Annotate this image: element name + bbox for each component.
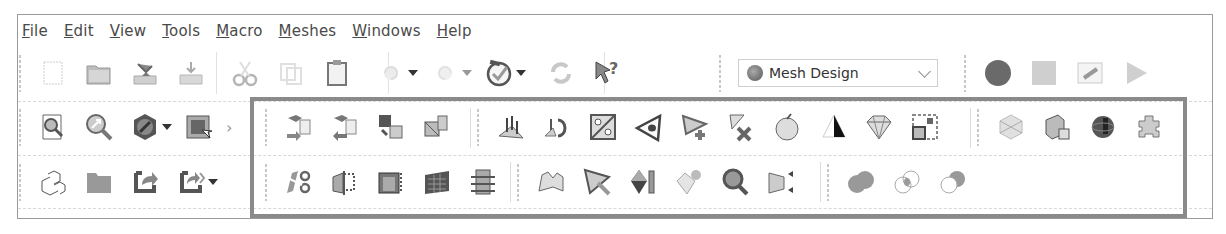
- toolbar-grip[interactable]: [976, 108, 980, 146]
- menu-meshes[interactable]: Meshes: [279, 22, 337, 40]
- whats-this-button[interactable]: ?: [590, 56, 624, 90]
- fit-all-button[interactable]: [36, 110, 70, 144]
- link-actions-dropdown[interactable]: [208, 165, 218, 199]
- std-views-button[interactable]: [182, 110, 216, 144]
- toolbar-grip[interactable]: [826, 163, 830, 201]
- remove-points-button[interactable]: [764, 165, 798, 199]
- mesh-from-shape-advanced-button[interactable]: [420, 110, 454, 144]
- workbench-selector[interactable]: Mesh Design: [738, 59, 938, 87]
- curvature-plot-button[interactable]: [534, 165, 568, 199]
- refresh-recompute-button[interactable]: [482, 56, 516, 90]
- toolbar-grip[interactable]: [476, 108, 480, 146]
- difference-button[interactable]: [936, 165, 970, 199]
- redo-dropdown[interactable]: [462, 56, 472, 90]
- macro-record-button[interactable]: [981, 56, 1015, 90]
- analyze-eye-icon: [634, 112, 664, 142]
- export-mesh-icon: [330, 112, 360, 142]
- toolbar-grip[interactable]: [18, 54, 22, 92]
- toolbar-grip[interactable]: [264, 163, 268, 201]
- folder-icon: [84, 167, 114, 197]
- decimate-icon: [996, 112, 1026, 142]
- part-button[interactable]: [36, 165, 70, 199]
- paste-button[interactable]: [320, 56, 354, 90]
- remove-components-button[interactable]: [724, 110, 758, 144]
- new-document-button[interactable]: [36, 56, 70, 90]
- menu-edit[interactable]: Edit: [64, 22, 94, 40]
- draw-style-button[interactable]: [128, 110, 162, 144]
- save-as-button[interactable]: [174, 56, 208, 90]
- part-blocks-icon: [38, 167, 68, 197]
- mesh-sphere-button[interactable]: [1086, 110, 1120, 144]
- evaluate-solid-button[interactable]: [586, 110, 620, 144]
- link-actions-button[interactable]: [174, 165, 208, 199]
- macro-execute-button[interactable]: [1119, 56, 1153, 90]
- menu-view[interactable]: View: [110, 22, 146, 40]
- segmentation-button[interactable]: [908, 110, 942, 144]
- recompute-dropdown[interactable]: [516, 56, 526, 90]
- export-mesh-button[interactable]: [328, 110, 362, 144]
- copy-button[interactable]: [274, 56, 308, 90]
- menu-windows[interactable]: Windows: [352, 22, 420, 40]
- cut-button[interactable]: [228, 56, 262, 90]
- section-from-plane-button[interactable]: [420, 165, 454, 199]
- addon-button[interactable]: [1132, 110, 1166, 144]
- inspect-magnifier-icon: [720, 167, 750, 197]
- undo-dropdown[interactable]: [408, 56, 418, 90]
- flip-normals-button[interactable]: [494, 110, 528, 144]
- split-component-icon: [628, 167, 658, 197]
- cross-sections-button[interactable]: [466, 165, 500, 199]
- split-component-button[interactable]: [626, 165, 660, 199]
- toolbar-grip[interactable]: [18, 108, 22, 146]
- trim-by-plane-button[interactable]: [374, 165, 408, 199]
- menu-tools[interactable]: Tools: [162, 22, 200, 40]
- redo-button[interactable]: [428, 56, 462, 90]
- toolbar-overflow-chevron[interactable]: ›: [226, 118, 232, 137]
- cut-mesh-button[interactable]: [282, 165, 316, 199]
- link-button[interactable]: [128, 165, 162, 199]
- refresh-button[interactable]: [544, 56, 578, 90]
- polyhedron-button[interactable]: [862, 110, 896, 144]
- trim-mesh-icon: [330, 167, 360, 197]
- menu-macro[interactable]: Macro: [216, 22, 262, 40]
- add-triangle-button[interactable]: [678, 110, 712, 144]
- mesh-from-shape-button[interactable]: [374, 110, 408, 144]
- macro-stop-button[interactable]: [1027, 56, 1061, 90]
- draw-style-dropdown[interactable]: [162, 110, 172, 144]
- union-button[interactable]: [844, 165, 878, 199]
- pick-triangle-button[interactable]: [580, 165, 614, 199]
- freecad-window: File Edit View Tools Macro Meshes Window…: [17, 14, 1213, 219]
- fit-selection-button[interactable]: [82, 110, 116, 144]
- menu-file[interactable]: File: [22, 22, 48, 40]
- save-button[interactable]: [128, 56, 162, 90]
- undo-button[interactable]: [374, 56, 408, 90]
- macro-edit-button[interactable]: [1073, 56, 1107, 90]
- decimate-button[interactable]: [994, 110, 1028, 144]
- inspect-button[interactable]: [718, 165, 752, 199]
- menu-help[interactable]: Help: [437, 22, 472, 40]
- mesh-tools-toolbar: [516, 156, 804, 208]
- cut-mesh-icon: [284, 167, 314, 197]
- paste-icon: [322, 58, 352, 88]
- toolbar-grip[interactable]: [18, 163, 22, 201]
- fill-holes-button[interactable]: [816, 110, 850, 144]
- trim-mesh-button[interactable]: [328, 165, 362, 199]
- toolbar-grip[interactable]: [718, 54, 722, 92]
- file-toolbar: ?: [18, 48, 630, 98]
- mesh-misc-toolbar: [976, 102, 1172, 152]
- group-button[interactable]: [82, 165, 116, 199]
- harmonize-normals-button[interactable]: [540, 110, 574, 144]
- import-mesh-button[interactable]: [282, 110, 316, 144]
- add-facet-button[interactable]: [672, 165, 706, 199]
- toolbar-separator: [970, 108, 971, 148]
- mesh-sphere-icon: [1088, 112, 1118, 142]
- intersection-button[interactable]: [890, 165, 924, 199]
- toolbar-grip[interactable]: [963, 54, 967, 92]
- fit-all-icon: [38, 112, 68, 142]
- toolbar-grip[interactable]: [264, 108, 268, 146]
- toolbar-grip[interactable]: [516, 163, 520, 201]
- smooth-mesh-button[interactable]: [770, 110, 804, 144]
- mesh-box-button[interactable]: [1040, 110, 1074, 144]
- analyze-mesh-button[interactable]: [632, 110, 666, 144]
- open-button[interactable]: [82, 56, 116, 90]
- apple-smooth-icon: [772, 112, 802, 142]
